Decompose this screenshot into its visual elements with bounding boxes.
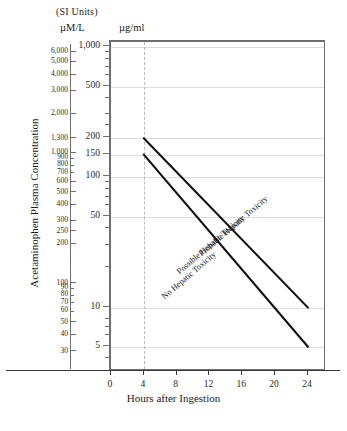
nomogram-line [144,155,308,347]
left-axis-tick-label: 6,000 [28,47,68,55]
left-axis-tick [70,282,76,283]
right-axis-minor-tick [105,266,110,267]
left-axis-tick [70,350,76,351]
left-axis-tick-label: 70 [28,299,68,306]
left-axis-tick [70,181,76,182]
left-axis-tick-label: 250 [28,227,68,235]
right-axis-minor-tick [105,244,110,245]
left-axis-tick [70,165,74,166]
x-axis-spine [6,370,340,371]
plot-area [110,40,325,370]
right-axis-tick [103,85,110,86]
left-axis-tick [70,204,76,205]
left-axis-tick [70,90,76,91]
right-axis-minor-tick [105,124,110,125]
right-axis-minor-tick [105,188,110,189]
x-axis-tick-label: 16 [226,378,256,389]
left-axis-tick-label: 200 [28,239,68,247]
left-axis-spine [70,44,71,369]
right-axis-tick-label: 5 [64,340,100,350]
x-axis-tick [241,370,242,375]
x-axis-title: Hours after Ingestion [0,392,347,404]
right-axis-minor-tick [105,51,110,52]
left-axis-tick-label: 600 [28,177,68,185]
nomogram-line [144,138,308,307]
left-axis-tick [70,51,76,52]
left-axis-tick [70,74,76,75]
left-axis-tick [70,191,76,192]
x-axis-tick [274,370,275,375]
left-axis-tick [70,230,76,231]
right-axis-minor-tick [105,334,110,335]
right-axis-unit-label: µg/ml [119,22,144,33]
right-axis-minor-tick [105,58,110,59]
right-axis-minor-tick [105,204,110,205]
right-axis-tick [103,215,110,216]
left-axis-tick-label: 1,300 [28,134,68,142]
left-axis-tick [70,113,76,114]
left-axis-tick [70,61,76,62]
left-axis-tick-label: 60 [28,307,68,314]
right-axis-tick [103,345,110,346]
right-axis-minor-tick [105,66,110,67]
x-axis-tick [110,370,111,375]
right-axis-minor-tick [105,196,110,197]
right-axis-tick-label: 1,000 [64,40,100,50]
right-axis-minor-tick [105,113,110,114]
right-axis-tick-label: 50 [64,210,100,220]
left-axis-unit-label: µM/L [60,22,85,33]
si-units-note: (SI Units) [56,6,98,17]
x-axis-tick-label: 8 [161,378,191,389]
right-axis-tick-label: 10 [64,301,100,311]
left-axis-tick [70,321,76,322]
right-axis-minor-tick [105,357,110,358]
x-axis-tick [176,370,177,375]
left-axis-tick-label: 400 [28,200,68,208]
left-axis-tick-label: 40 [28,330,68,338]
left-axis-tick-label: 2,000 [28,109,68,117]
right-axis-minor-tick [105,181,110,182]
left-axis-tick-label: 30 [28,347,68,355]
right-axis-tick [103,136,110,137]
right-axis-minor-tick [105,74,110,75]
x-axis-tick-label: 20 [259,378,289,389]
left-axis-tick-label: 500 [28,188,68,196]
right-axis-tick [103,306,110,307]
right-axis-tick-label: 500 [64,80,100,90]
nomogram-lines [111,42,325,370]
left-axis-tick-label: 4,000 [28,70,68,78]
x-axis-tick [208,370,209,375]
left-axis-tick [70,243,76,244]
right-axis-minor-tick [105,97,110,98]
right-axis-tick-label: 100 [64,170,100,180]
right-axis-minor-tick [105,326,110,327]
left-axis-tick-label: 5,000 [28,57,68,65]
left-axis-tick [70,311,74,312]
left-axis-tick-label: 50 [28,318,68,326]
left-axis-tick-label: 3,000 [28,86,68,94]
left-axis-tick [70,295,74,296]
right-axis-minor-tick [105,227,110,228]
right-axis-tick-label: 200 [64,131,100,141]
right-axis-tick-label: 150 [64,148,100,158]
right-axis-minor-tick [105,318,110,319]
left-axis-tick-label: 700 [28,169,68,176]
left-axis-tick [70,220,76,221]
left-axis-tick [70,158,74,159]
x-axis-tick-label: 12 [193,378,223,389]
left-axis-tick [70,334,76,335]
left-axis-tick [70,288,74,289]
x-axis-tick [307,370,308,375]
right-axis-tick [103,175,110,176]
right-axis-tick [103,153,110,154]
x-axis-tick-label: 0 [95,378,125,389]
x-axis-tick-label: 4 [128,378,158,389]
right-axis-tick [103,45,110,46]
nomogram-figure: (SI Units) µM/L µg/ml Acetaminophen Plas… [0,0,347,431]
x-axis-tick-label: 24 [292,378,322,389]
x-axis-tick [143,370,144,375]
left-axis-tick-label: 300 [28,216,68,224]
